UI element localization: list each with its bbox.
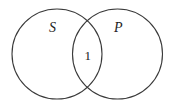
intersection-region-label: 1 bbox=[85, 48, 92, 63]
venn-diagram: S P 1 bbox=[0, 0, 172, 105]
set-p-label: P bbox=[113, 20, 123, 35]
set-s-label: S bbox=[49, 20, 56, 35]
